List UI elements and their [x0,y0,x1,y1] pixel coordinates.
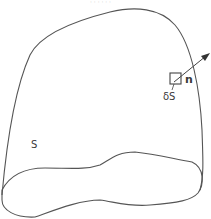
surface-label: S [31,139,37,150]
surface-element-square [170,73,181,84]
element-label: δS [163,91,175,102]
caption-fragment: · · · · · · [90,0,111,5]
surface-diagram: · · · · · · n δS S [0,0,211,219]
normal-vector-arrowhead-icon [201,53,210,61]
normal-label: n [185,73,193,86]
element-pointer [172,84,174,90]
surface-rim [2,152,202,217]
